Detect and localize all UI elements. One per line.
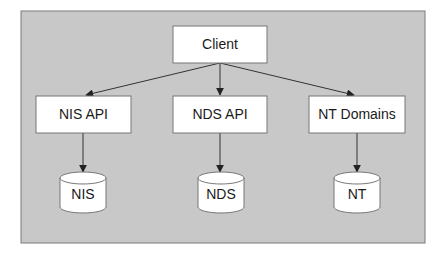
nt-db-label: NT: [348, 186, 367, 202]
nis-api-label: NIS API: [59, 106, 108, 122]
client-label: Client: [202, 36, 238, 52]
node-nt-domains: NT Domains: [309, 96, 405, 133]
nt-domains-label: NT Domains: [318, 106, 396, 122]
nds-db-label: NDS: [206, 186, 236, 202]
node-nds-api: NDS API: [173, 96, 267, 133]
database-nds: NDS: [198, 172, 244, 213]
node-client: Client: [173, 26, 267, 63]
architecture-diagram: Client NIS API NDS API NT Domains NIS ND…: [0, 0, 442, 255]
database-nt: NT: [334, 172, 380, 213]
nis-db-label: NIS: [71, 186, 94, 202]
database-nis: NIS: [60, 172, 106, 213]
node-nis-api: NIS API: [36, 96, 131, 133]
nds-api-label: NDS API: [192, 106, 247, 122]
